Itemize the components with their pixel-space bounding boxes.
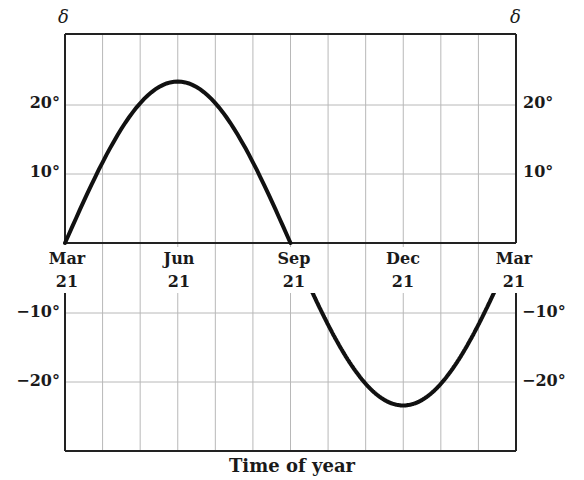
x-tick-day: 21 bbox=[264, 270, 324, 293]
x-tick-month: Mar bbox=[484, 247, 544, 270]
x-tick-mar21-start: Mar 21 bbox=[37, 247, 97, 293]
y-tick-left-minus10: −10° bbox=[0, 302, 60, 321]
y-tick-right-minus10: −10° bbox=[522, 302, 566, 321]
y-tick-right-minus20: −20° bbox=[522, 371, 566, 390]
y-tick-left-10: 10° bbox=[0, 162, 60, 181]
x-axis-title: Time of year bbox=[0, 455, 584, 476]
y-tick-right-10: 10° bbox=[523, 162, 553, 181]
x-tick-dec21: Dec 21 bbox=[373, 247, 433, 293]
x-tick-month: Mar bbox=[37, 247, 97, 270]
x-tick-day: 21 bbox=[37, 270, 97, 293]
grid-upper bbox=[65, 34, 516, 243]
y-tick-left-20: 20° bbox=[0, 93, 60, 112]
x-tick-day: 21 bbox=[149, 270, 209, 293]
x-tick-day: 21 bbox=[484, 270, 544, 293]
x-tick-month: Dec bbox=[373, 247, 433, 270]
y-tick-left-minus20: −20° bbox=[0, 371, 60, 390]
x-tick-mar21-end: Mar 21 bbox=[484, 247, 544, 293]
y-axis-symbol-left: δ bbox=[58, 6, 69, 27]
x-tick-day: 21 bbox=[373, 270, 433, 293]
x-tick-month: Jun bbox=[149, 247, 209, 270]
declination-chart bbox=[0, 0, 584, 480]
y-tick-right-20: 20° bbox=[523, 93, 553, 112]
x-tick-jun21: Jun 21 bbox=[149, 247, 209, 293]
y-axis-symbol-right: δ bbox=[510, 6, 521, 27]
x-tick-sep21: Sep 21 bbox=[264, 247, 324, 293]
x-tick-month: Sep bbox=[264, 247, 324, 270]
